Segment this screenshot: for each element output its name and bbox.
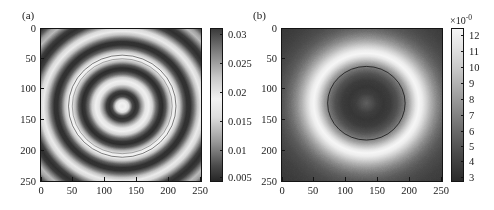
panel-b-ytick-label-100: 100 — [249, 83, 277, 94]
panel-b-xtick-mark-150 — [377, 177, 378, 182]
panel-a-xtick-mark-250 — [200, 177, 201, 182]
panel-a-xtick-mark-50 — [72, 177, 73, 182]
panel-b-colorbar-exponent: ×10-0 — [450, 13, 472, 26]
panel-a-ytick-mark-200 — [40, 150, 44, 151]
panel-a-ytick-label-150: 150 — [2, 114, 36, 125]
panel-a-xtick-mark-0 — [41, 177, 42, 182]
panel-a-colorbar — [210, 28, 223, 182]
panel-b-cbtick-label-5: 7 — [469, 110, 474, 121]
panel-a-cbtick-mark-5 — [220, 177, 223, 178]
panel-a-label: (a) — [22, 9, 34, 21]
panel-b-cbtick-mark-1 — [461, 51, 464, 52]
panel-a-ytick-mark-50 — [40, 58, 44, 59]
panel-a-xtick-label-200: 200 — [160, 185, 176, 196]
panel-b-cbtick-mark-5 — [461, 115, 464, 116]
panel-b-ytick-mark-100 — [281, 88, 285, 89]
panel-b-xtick-mark-50 — [313, 177, 314, 182]
panel-b-xtick-label-100: 100 — [337, 185, 353, 196]
panel-b-label: (b) — [253, 9, 266, 21]
panel-a-cbtick-mark-3 — [220, 121, 223, 122]
panel-b-cbtick-mark-9 — [461, 177, 464, 178]
panel-a-xtick-label-0: 0 — [38, 185, 43, 196]
colorbar-exponent-base: ×10 — [450, 15, 466, 26]
panel-b-xtick-mark-100 — [345, 177, 346, 182]
panel-a-ytick-label-250: 250 — [2, 176, 36, 187]
panel-b-cbtick-label-2: 10 — [469, 62, 480, 73]
panel-b-cbtick-label-4: 8 — [469, 94, 474, 105]
panel-a-xtick-label-50: 50 — [67, 185, 78, 196]
panel-b-cbtick-mark-3 — [461, 83, 464, 84]
panel-b-ytick-mark-200 — [281, 150, 285, 151]
panel-a-colorbar-gradient — [211, 29, 222, 181]
panel-b-cbtick-mark-0 — [461, 35, 464, 36]
panel-a-ytick-mark-0 — [40, 28, 44, 29]
panel-b-ytick-mark-50 — [281, 58, 285, 59]
panel-b-cbtick-label-3: 9 — [469, 78, 474, 89]
panel-b-xtick-mark-250 — [441, 177, 442, 182]
panel-a: (a) — [0, 0, 247, 210]
panel-b-cbtick-mark-8 — [461, 161, 464, 162]
panel-b-xtick-label-50: 50 — [308, 185, 319, 196]
panel-b-ytick-mark-0 — [281, 28, 285, 29]
panel-b-cbtick-mark-2 — [461, 67, 464, 68]
panel-b-ytick-label-200: 200 — [249, 145, 277, 156]
panel-a-image-axes — [40, 28, 202, 182]
panel-a-cbtick-label-0: 0.03 — [228, 29, 246, 40]
panel-b-ytick-mark-150 — [281, 119, 285, 120]
panel-b-ytick-label-0: 0 — [249, 23, 277, 34]
panel-b-xtick-label-200: 200 — [401, 185, 417, 196]
panel-a-cbtick-mark-2 — [220, 92, 223, 93]
panel-a-heatmap — [41, 29, 201, 181]
panel-a-xtick-label-250: 250 — [192, 185, 208, 196]
panel-b-ytick-label-50: 50 — [249, 53, 277, 64]
panel-b-xtick-mark-0 — [282, 177, 283, 182]
panel-b-cbtick-mark-6 — [461, 131, 464, 132]
panel-b-ytick-label-250: 250 — [249, 176, 277, 187]
panel-a-ytick-label-200: 200 — [2, 145, 36, 156]
panel-b-cbtick-label-9: 3 — [469, 172, 474, 183]
panel-b-xtick-label-0: 0 — [279, 185, 284, 196]
panel-b-cbtick-label-7: 5 — [469, 141, 474, 152]
panel-a-ytick-label-0: 0 — [2, 23, 36, 34]
panel-a-xtick-mark-100 — [104, 177, 105, 182]
panel-a-xtick-mark-150 — [136, 177, 137, 182]
panel-a-cbtick-label-4: 0.01 — [228, 145, 246, 156]
panel-b-heatmap — [282, 29, 442, 181]
panel-a-ytick-label-50: 50 — [2, 53, 36, 64]
figure-container: (a) — [0, 0, 494, 210]
panel-b-xtick-label-250: 250 — [433, 185, 449, 196]
panel-b-ytick-label-150: 150 — [249, 114, 277, 125]
panel-a-ytick-mark-150 — [40, 119, 44, 120]
panel-b-cbtick-label-6: 6 — [469, 126, 474, 137]
panel-b-cbtick-label-1: 11 — [469, 46, 479, 57]
panel-b-cbtick-mark-4 — [461, 99, 464, 100]
panel-a-cbtick-mark-4 — [220, 150, 223, 151]
panel-b-image-axes — [281, 28, 443, 182]
panel-a-cbtick-label-2: 0.02 — [228, 87, 246, 98]
colorbar-exponent-power: -0 — [466, 13, 472, 22]
panel-b-cbtick-mark-7 — [461, 146, 464, 147]
panel-a-cbtick-mark-0 — [220, 34, 223, 35]
panel-b: (b) — [247, 0, 494, 210]
panel-b-xtick-mark-200 — [409, 177, 410, 182]
panel-a-ytick-mark-100 — [40, 88, 44, 89]
panel-b-xtick-label-150: 150 — [369, 185, 385, 196]
panel-b-cbtick-label-8: 4 — [469, 156, 474, 167]
panel-a-cbtick-mark-1 — [220, 63, 223, 64]
panel-a-xtick-label-100: 100 — [96, 185, 112, 196]
panel-a-xtick-label-150: 150 — [128, 185, 144, 196]
panel-a-ytick-label-100: 100 — [2, 83, 36, 94]
panel-a-xtick-mark-200 — [168, 177, 169, 182]
panel-b-cbtick-label-0: 12 — [469, 30, 480, 41]
